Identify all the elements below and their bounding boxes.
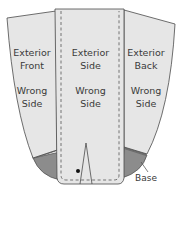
panel-label-line: Side — [12, 98, 52, 111]
panel-label-line: Exterior — [12, 47, 52, 60]
panel-label-line: Back — [125, 60, 167, 73]
panel-label-line: Side — [70, 60, 111, 73]
panel-label-line: Front — [12, 60, 52, 73]
base-label: Base — [135, 173, 157, 183]
label-exterior-back: Exterior Back Wrong Side — [125, 47, 167, 110]
panel-label-line: Wrong — [125, 85, 167, 98]
panel-label-line: Exterior — [125, 47, 167, 60]
base-leader-line — [141, 162, 148, 172]
panel-label-line: Wrong — [70, 85, 111, 98]
label-exterior-front: Exterior Front Wrong Side — [12, 47, 52, 110]
label-exterior-side: Exterior Side Wrong Side — [70, 47, 111, 110]
marker-dot — [76, 169, 80, 173]
panel-label-line: Side — [70, 98, 111, 111]
panel-label-line: Exterior — [70, 47, 111, 60]
panel-label-line: Wrong — [12, 85, 52, 98]
panel-label-line: Side — [125, 98, 167, 111]
